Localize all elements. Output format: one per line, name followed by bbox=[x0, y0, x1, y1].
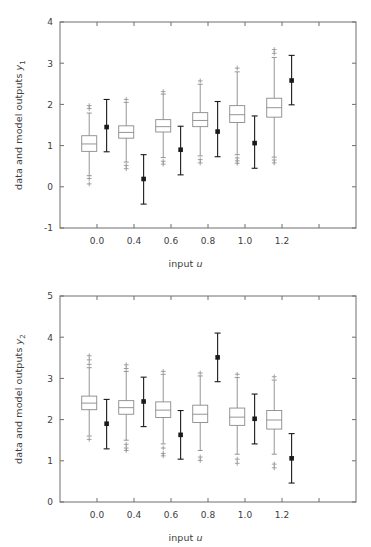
x-axis-tick-label: 0.4 bbox=[127, 510, 142, 520]
y-axis-tick-label: 3 bbox=[47, 59, 53, 69]
chart-panel-y1: data and model outputs y1 -1012340.00.40… bbox=[0, 0, 371, 273]
model-point-marker bbox=[215, 355, 220, 360]
model-marker-group bbox=[215, 102, 221, 157]
model-point-marker bbox=[289, 78, 294, 83]
y-axis-tick-label: 1 bbox=[47, 456, 53, 466]
model-marker-group bbox=[178, 411, 184, 460]
box-group bbox=[82, 353, 97, 441]
y-axis-tick-label: 5 bbox=[47, 291, 53, 301]
model-point-marker bbox=[289, 456, 294, 461]
model-point-marker bbox=[104, 421, 109, 426]
model-marker-group bbox=[215, 333, 221, 382]
model-point-marker bbox=[252, 141, 257, 146]
y-axis-tick-label: 2 bbox=[47, 415, 53, 425]
model-point-marker bbox=[104, 125, 109, 130]
box-group bbox=[82, 103, 97, 186]
plot-area-bottom: 0123450.00.40.60.81.01.2 bbox=[0, 274, 371, 547]
x-axis-tick-label: 0.0 bbox=[90, 510, 105, 520]
x-axis-tick-label: 1.2 bbox=[275, 236, 289, 246]
model-point-marker bbox=[141, 177, 146, 182]
model-marker-group bbox=[104, 399, 110, 448]
figure-root: data and model outputs y1 -1012340.00.40… bbox=[0, 0, 371, 547]
y-axis-tick-label: 3 bbox=[47, 374, 53, 384]
y-axis-tick-label: -1 bbox=[44, 223, 53, 233]
y-axis-tick-label: 0 bbox=[47, 182, 53, 192]
box-group bbox=[156, 89, 171, 166]
box-group bbox=[230, 66, 245, 166]
box-group bbox=[193, 371, 208, 463]
model-marker-group bbox=[104, 99, 110, 151]
x-axis-tick-label: 0.8 bbox=[201, 510, 216, 520]
box-iqr bbox=[230, 106, 245, 123]
y-axis-tick-label: 4 bbox=[47, 333, 53, 343]
model-point-marker bbox=[178, 147, 183, 152]
model-point-marker bbox=[215, 129, 220, 134]
box-group bbox=[156, 369, 171, 458]
box-group bbox=[119, 362, 134, 452]
y-axis-tick-label: 2 bbox=[47, 100, 53, 110]
x-axis-label-top: input u bbox=[0, 258, 371, 269]
y-axis-tick-label: 0 bbox=[47, 497, 53, 507]
x-axis-label-bottom: input u bbox=[0, 532, 371, 543]
box-group bbox=[193, 79, 208, 166]
chart-panel-y2: data and model outputs y2 0123450.00.40.… bbox=[0, 274, 371, 547]
box-group bbox=[119, 97, 134, 171]
x-axis-tick-label: 1.2 bbox=[275, 510, 289, 520]
box-group bbox=[267, 47, 282, 165]
model-marker-group bbox=[289, 55, 295, 104]
model-point-marker bbox=[178, 433, 183, 438]
model-marker-group bbox=[252, 394, 258, 444]
box-group bbox=[230, 372, 245, 466]
box-iqr bbox=[156, 120, 171, 132]
x-axis-tick-label: 0.0 bbox=[90, 236, 105, 246]
model-marker-group bbox=[141, 377, 147, 426]
x-axis-tick-label: 0.6 bbox=[164, 236, 179, 246]
box-iqr bbox=[193, 113, 208, 127]
model-marker-group bbox=[252, 116, 258, 168]
box-group bbox=[267, 374, 282, 470]
plot-area-top: -1012340.00.40.60.81.01.2 bbox=[0, 0, 371, 273]
x-axis-tick-label: 0.6 bbox=[164, 510, 179, 520]
model-marker-group bbox=[178, 126, 184, 175]
y-axis-tick-label: 4 bbox=[47, 17, 53, 27]
model-point-marker bbox=[141, 399, 146, 404]
x-axis-tick-label: 0.8 bbox=[201, 236, 216, 246]
y-axis-tick-label: 1 bbox=[47, 141, 53, 151]
model-point-marker bbox=[252, 416, 257, 421]
x-axis-tick-label: 1.0 bbox=[238, 236, 253, 246]
model-marker-group bbox=[289, 434, 295, 483]
x-axis-tick-label: 0.4 bbox=[127, 236, 142, 246]
model-marker-group bbox=[141, 155, 147, 204]
x-axis-tick-label: 1.0 bbox=[238, 510, 253, 520]
